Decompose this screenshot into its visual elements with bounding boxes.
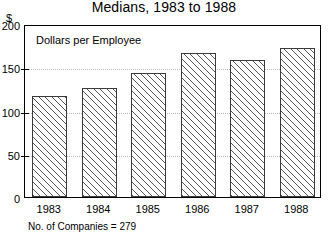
bar-1983 xyxy=(32,96,67,197)
x-tick-label: 1988 xyxy=(284,203,308,215)
bar-1986 xyxy=(181,53,216,197)
x-tick-label: 1987 xyxy=(235,203,259,215)
y-tick-label: 200 xyxy=(2,21,20,32)
x-tick-label: 1986 xyxy=(185,203,209,215)
y-tick-label: 150 xyxy=(2,64,20,75)
chart-footnote: No. of Companies = 279 xyxy=(28,221,136,232)
bar-1985 xyxy=(131,73,166,197)
y-tick-label: 0 xyxy=(14,194,20,205)
plot-inner: 050100150200 Dollars per Employee xyxy=(25,26,320,197)
y-tick-label: 50 xyxy=(8,150,20,161)
plot-area: 050100150200 Dollars per Employee xyxy=(24,25,321,198)
bars-layer xyxy=(25,26,320,197)
x-tick-label: 1984 xyxy=(86,203,110,215)
bar-chart: Medians, 1983 to 1988 $ 050100150200 Dol… xyxy=(0,0,328,236)
x-tick-label: 1985 xyxy=(136,203,160,215)
bar-1987 xyxy=(230,60,265,197)
y-tick-label: 100 xyxy=(2,107,20,118)
chart-title: Medians, 1983 to 1988 xyxy=(0,0,328,15)
bar-1988 xyxy=(280,48,315,197)
x-tick-label: 1983 xyxy=(37,203,61,215)
bar-1984 xyxy=(82,88,117,197)
